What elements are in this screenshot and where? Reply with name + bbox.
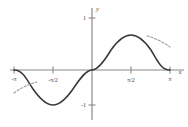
sine-curve-plot: -π -π/2 π/2 π 1 -1 y x	[0, 0, 188, 127]
figure-canvas: -π -π/2 π/2 π 1 -1 y x	[0, 0, 188, 127]
x-tick-label-half-pi: π/2	[127, 77, 135, 83]
x-tick-label-neg-pi: -π	[11, 76, 16, 82]
y-tick-label-one: 1	[83, 15, 86, 21]
y-axis-label: y	[95, 5, 100, 13]
x-tick-label-pi: π	[168, 76, 171, 82]
dashed-branch-lower-left	[14, 82, 37, 93]
x-tick-label-neg-half-pi: -π/2	[48, 77, 58, 83]
dashed-branch-upper-right	[147, 36, 170, 47]
y-tick-label-neg-one: -1	[81, 102, 86, 108]
x-axis-label: x	[177, 68, 182, 76]
